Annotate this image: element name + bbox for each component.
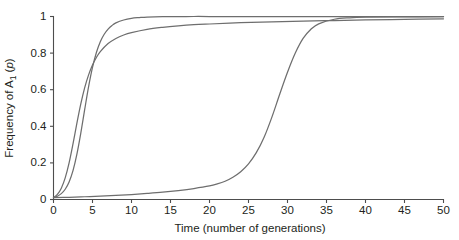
y-tick-label: 0.8 bbox=[31, 47, 47, 59]
x-tick-label: 0 bbox=[50, 204, 56, 216]
y-tick-label: 0 bbox=[40, 193, 46, 205]
x-tick-label: 25 bbox=[242, 204, 255, 216]
x-axis-title: Time (number of generations) bbox=[174, 222, 325, 234]
weak-selection-curve bbox=[54, 17, 444, 198]
strong-selection-curve bbox=[54, 16, 444, 197]
y-tick-label: 0.6 bbox=[31, 83, 47, 95]
y-axis-title: Frequency of A1 (p) bbox=[3, 58, 18, 158]
x-tick-label: 10 bbox=[125, 204, 138, 216]
y-axis-tick-labels: 00.20.40.60.81 bbox=[31, 10, 48, 205]
logistic-allele-frequency-chart: 00.20.40.60.81 05101520253035404550 Time… bbox=[0, 0, 459, 240]
x-tick-label: 5 bbox=[89, 204, 95, 216]
y-tick-label: 1 bbox=[40, 10, 46, 22]
moderate-selection-curve bbox=[54, 19, 444, 198]
y-tick-label: 0.2 bbox=[31, 156, 47, 168]
x-tick-label: 45 bbox=[398, 204, 411, 216]
x-axis-tick-labels: 05101520253035404550 bbox=[50, 204, 450, 216]
chart-figure: 00.20.40.60.81 05101520253035404550 Time… bbox=[0, 0, 459, 240]
x-tick-label: 40 bbox=[359, 204, 372, 216]
data-curves bbox=[54, 16, 444, 197]
x-tick-label: 30 bbox=[281, 204, 294, 216]
x-tick-label: 20 bbox=[203, 204, 216, 216]
x-tick-label: 35 bbox=[320, 204, 333, 216]
y-tick-label: 0.4 bbox=[31, 120, 48, 132]
x-tick-label: 50 bbox=[437, 204, 450, 216]
x-tick-label: 15 bbox=[164, 204, 177, 216]
